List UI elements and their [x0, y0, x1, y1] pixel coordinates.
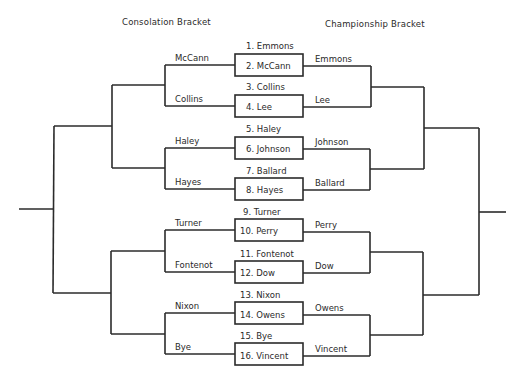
seed-label: 16. Vincent: [240, 351, 288, 361]
seed-label: 9. Turner: [243, 207, 281, 217]
consolation-name: Collins: [175, 94, 203, 104]
consolation-name: Nixon: [175, 301, 199, 311]
championship-name: Ballard: [315, 178, 345, 188]
championship-name: Perry: [315, 220, 337, 230]
seed-label: 13. Nixon: [240, 290, 280, 300]
seed-label: 14. Owens: [240, 310, 285, 320]
seed-label: 1. Emmons: [246, 41, 294, 51]
consolation-name: McCann: [175, 53, 209, 63]
seed-label: 5. Haley: [246, 124, 281, 134]
consolation-name: Turner: [175, 218, 202, 228]
seed-label: 6. Johnson: [246, 144, 290, 154]
consolation-name: Haley: [175, 136, 199, 146]
championship-name: Vincent: [315, 344, 347, 354]
seed-label: 12. Dow: [240, 268, 275, 278]
consolation-name: Bye: [175, 342, 191, 352]
championship-name: Lee: [315, 95, 330, 105]
seed-label: 4. Lee: [246, 102, 272, 112]
consolation-name: Fontenot: [175, 260, 213, 270]
consolation-name: Hayes: [175, 177, 201, 187]
championship-bracket-title: Championship Bracket: [325, 19, 425, 29]
championship-name: Owens: [315, 303, 344, 313]
championship-name: Johnson: [315, 137, 349, 147]
seed-label: 11. Fontenot: [240, 249, 294, 259]
championship-name: Dow: [315, 261, 334, 271]
seed-label: 3. Collins: [246, 82, 285, 92]
consolation-bracket-title: Consolation Bracket: [122, 17, 211, 27]
tournament-bracket: Consolation Bracket Championship Bracket…: [0, 0, 506, 380]
seed-label: 8. Hayes: [246, 185, 283, 195]
seed-label: 15. Bye: [240, 331, 272, 341]
seed-label: 10. Perry: [240, 226, 278, 236]
seed-label: 7. Ballard: [246, 166, 287, 176]
championship-name: Emmons: [315, 54, 352, 64]
seed-label: 2. McCann: [246, 61, 291, 71]
